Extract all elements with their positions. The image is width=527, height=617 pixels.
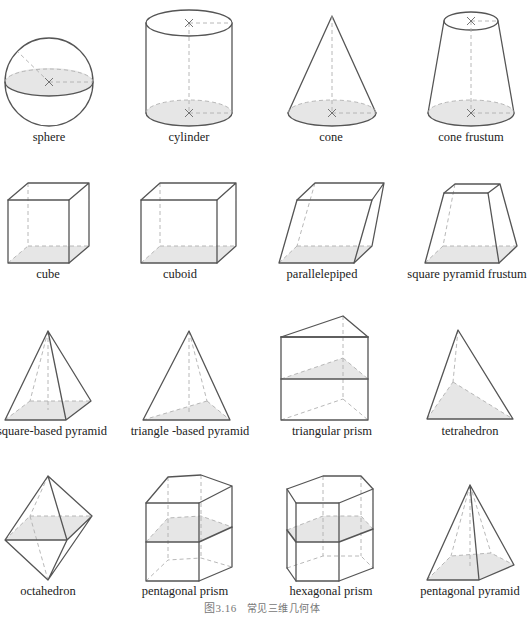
ppy-base-face bbox=[427, 553, 514, 580]
pentagonal-prism-shape bbox=[146, 475, 232, 581]
figure-number: 图3.16 bbox=[204, 602, 237, 614]
tp-hidden-edge bbox=[343, 399, 368, 420]
tbp-base-face bbox=[143, 401, 230, 420]
tp-top-edges bbox=[281, 316, 368, 337]
label-tetrahedron: tetrahedron bbox=[442, 425, 499, 438]
label-cone-frustum: cone frustum bbox=[438, 131, 504, 144]
pp-hidden-base bbox=[146, 558, 232, 581]
parallelepiped-hidden-edge bbox=[297, 183, 315, 246]
tbp-hidden-edge bbox=[189, 331, 207, 401]
cone-shape bbox=[288, 16, 376, 126]
hp-section-face bbox=[287, 516, 373, 542]
octa-hidden-edge bbox=[30, 476, 48, 516]
spf-base-face bbox=[425, 246, 517, 263]
tp-hidden-edge bbox=[281, 399, 343, 420]
cube-shape bbox=[8, 183, 89, 263]
square-pyramid-frustum-shape bbox=[425, 184, 517, 263]
cuboid-shape bbox=[141, 183, 236, 263]
frustum-left-side bbox=[428, 21, 444, 113]
pp-section-face bbox=[146, 516, 232, 542]
square-based-pyramid-shape bbox=[5, 331, 91, 420]
label-pentagonal-pyramid: pentagonal pyramid bbox=[420, 585, 520, 598]
cube-base-face bbox=[8, 246, 89, 263]
hp-bottom-edges bbox=[287, 568, 373, 581]
sphere-shape bbox=[5, 38, 93, 126]
octahedron-shape bbox=[5, 476, 92, 580]
label-sphere: sphere bbox=[33, 131, 66, 144]
label-cuboid: cuboid bbox=[163, 268, 197, 281]
label-cone: cone bbox=[319, 131, 343, 144]
label-square-pyramid-frustum: square pyramid frustum bbox=[407, 268, 526, 281]
cylinder-shape bbox=[146, 10, 232, 126]
label-pentagonal-prism: pentagonal prism bbox=[142, 585, 228, 598]
figure-caption: 图3.16常见三维几何体 bbox=[204, 599, 320, 615]
pentagonal-pyramid-shape bbox=[427, 485, 514, 580]
hp-top-edges bbox=[287, 476, 373, 503]
cone-frustum-shape bbox=[428, 12, 514, 126]
label-triangle-based-pyramid: triangle -based pyramid bbox=[131, 425, 250, 438]
sbp-hidden-edge bbox=[30, 331, 48, 401]
figure-caption-text: 常见三维几何体 bbox=[247, 603, 321, 614]
label-square-based-pyramid: square-based pyramid bbox=[0, 425, 107, 438]
tetrahedron-shape bbox=[427, 330, 513, 419]
frustum-right-side bbox=[498, 21, 514, 113]
hexagonal-prism-shape bbox=[287, 476, 373, 581]
label-hexagonal-prism: hexagonal prism bbox=[290, 585, 373, 598]
label-octahedron: octahedron bbox=[20, 585, 76, 598]
parallelepiped-shape bbox=[279, 183, 384, 263]
label-parallelepiped: parallelepiped bbox=[287, 268, 358, 281]
label-cube: cube bbox=[36, 268, 60, 281]
triangle-based-pyramid-shape bbox=[143, 331, 230, 420]
hp-hidden-base bbox=[287, 556, 373, 568]
label-triangular-prism: triangular prism bbox=[292, 425, 372, 438]
triangular-prism-shape bbox=[281, 316, 368, 420]
label-cylinder: cylinder bbox=[169, 131, 210, 144]
cuboid-base-face bbox=[141, 246, 236, 263]
